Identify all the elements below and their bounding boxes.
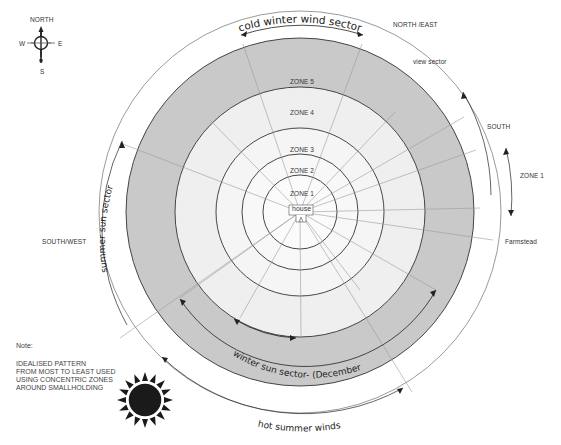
zone-3-label: ZONE 3	[290, 146, 314, 153]
farmstead-label: Farmstead	[505, 238, 537, 245]
note-title: Note:	[16, 342, 33, 350]
arrowhead	[503, 148, 509, 155]
zone-1-side-label: ZONE 1	[520, 172, 544, 179]
zone1-sector-arrow	[506, 148, 512, 216]
hot-summer-winds-label: hot summer winds	[257, 419, 341, 434]
arrowhead	[508, 210, 514, 216]
zone-4-label: ZONE 4	[290, 109, 314, 116]
view-sector-label: view sector	[413, 58, 447, 65]
zone-1-label: ZONE 1	[290, 190, 314, 197]
compass-east-label: E	[58, 40, 62, 47]
compass-icon	[27, 26, 55, 63]
south-west-label: SOUTH/WEST	[42, 238, 86, 245]
house-label: house	[292, 205, 311, 212]
zone-5-label: ZONE 5	[290, 78, 314, 85]
sun-icon	[117, 372, 173, 428]
compass-west-label: W	[19, 40, 25, 47]
compass-north-label: NORTH	[30, 16, 54, 23]
south-label: SOUTH	[487, 123, 510, 130]
note-line-4: AROUND SMALLHOLDING	[16, 384, 103, 392]
compass-south-label: S	[40, 68, 44, 75]
zone-2-label: ZONE 2	[290, 167, 314, 174]
north-east-label: NORTH /EAST	[393, 21, 438, 28]
